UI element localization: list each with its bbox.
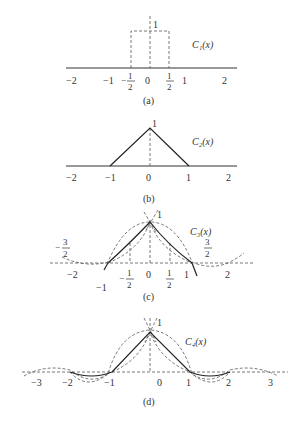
tick-label: −2 — [66, 172, 77, 183]
panel-c: 1 C₃(x) −2 −1 0 1 2 − 3 2 − 1 2 1 2 3 2 … — [50, 209, 253, 303]
frac-num: 3 — [205, 237, 210, 247]
tick-label: 1 — [186, 172, 191, 183]
peak-label: 1 — [152, 118, 157, 129]
panel-caption: (c) — [143, 291, 154, 303]
tick-label: 1 — [186, 377, 191, 388]
panel-a: 1 C₁(x) −2 −1 0 1 2 − 1 2 1 2 (a) — [66, 16, 237, 107]
frac-num: 1 — [128, 71, 133, 81]
peak-label: 1 — [157, 209, 162, 220]
tick-label: −1 — [103, 75, 114, 86]
peak-label: 1 — [157, 317, 162, 328]
tick-label: −1 — [104, 377, 115, 388]
tick-label: 0 — [146, 269, 151, 280]
frac-num: 1 — [167, 71, 172, 81]
comparison-curve — [112, 332, 190, 372]
tick-label: 3 — [268, 377, 273, 388]
frac-den: 2 — [167, 280, 172, 290]
panel-caption: (b) — [143, 193, 155, 205]
panel-b: 1 C₂(x) −2 −1 0 1 2 (b) — [66, 118, 237, 205]
figure: 1 C₁(x) −2 −1 0 1 2 − 1 2 1 2 (a) 1 C₂(x… — [0, 0, 304, 425]
tick-label: −1 — [96, 282, 107, 293]
frac-den: 2 — [127, 280, 132, 290]
tick-label: 0 — [146, 172, 151, 183]
triangle-function-curve — [110, 128, 189, 166]
frac-den: 2 — [128, 82, 133, 92]
frac-sign: − — [55, 242, 60, 252]
tick-label: 2 — [226, 377, 231, 388]
frac-sign: − — [119, 273, 124, 283]
frac-den: 2 — [205, 249, 210, 259]
function-label: C₄(x) — [185, 336, 207, 348]
tick-label: 2 — [222, 75, 227, 86]
frac-num: 1 — [167, 268, 172, 278]
tick-label: −2 — [66, 75, 77, 86]
tick-label: 1 — [182, 75, 187, 86]
tick-label: 2 — [225, 269, 230, 280]
frac-num: 3 — [63, 237, 68, 247]
frac-den: 2 — [167, 82, 172, 92]
panel-caption: (a) — [143, 95, 154, 107]
panel-caption: (d) — [143, 396, 155, 408]
tick-label: 1 — [184, 269, 189, 280]
tick-label: −2 — [67, 269, 78, 280]
tick-label: −3 — [31, 377, 42, 388]
function-label: C₁(x) — [192, 39, 214, 51]
tick-label: 0 — [157, 377, 162, 388]
tick-label: 0 — [145, 75, 150, 86]
function-label: C₂(x) — [192, 136, 214, 148]
tick-label: −1 — [105, 172, 116, 183]
tick-label: 2 — [226, 172, 231, 183]
frac-num: 1 — [127, 268, 132, 278]
panel-d: 1 C₄(x) −3 −2 −1 0 1 2 3 (d) — [22, 317, 288, 408]
peak-label: 1 — [153, 19, 158, 30]
frac-sign: − — [121, 75, 126, 85]
frac-den: 2 — [63, 249, 68, 259]
tick-label: −2 — [62, 377, 73, 388]
